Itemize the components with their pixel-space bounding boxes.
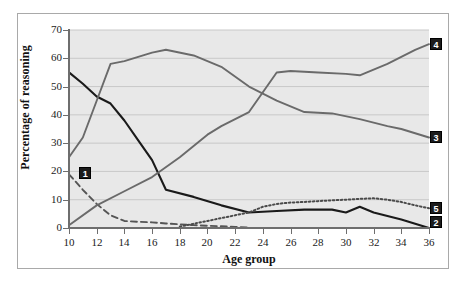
y-tick-label: 0 bbox=[40, 222, 62, 233]
x-tick-mark bbox=[97, 229, 98, 234]
series-lines bbox=[69, 30, 429, 228]
x-tick-label: 16 bbox=[139, 236, 165, 248]
series-line-3 bbox=[69, 50, 429, 157]
x-axis-title: Age group bbox=[69, 252, 429, 267]
x-tick-mark bbox=[374, 229, 375, 234]
x-tick-label: 14 bbox=[111, 236, 137, 248]
series-line-2 bbox=[69, 72, 429, 228]
y-tick-label: 20 bbox=[40, 165, 62, 176]
series-line-5 bbox=[180, 198, 429, 226]
x-tick-mark bbox=[346, 229, 347, 234]
y-tick-mark bbox=[63, 143, 68, 144]
x-tick-label: 36 bbox=[416, 236, 442, 248]
y-tick-mark bbox=[63, 115, 68, 116]
x-tick-label: 20 bbox=[194, 236, 220, 248]
x-tick-label: 34 bbox=[388, 236, 414, 248]
x-tick-mark bbox=[207, 229, 208, 234]
x-tick-label: 32 bbox=[361, 236, 387, 248]
figure-container: 010203040506070 101214161820222426283032… bbox=[0, 0, 466, 284]
series-tag-4: 4 bbox=[430, 38, 442, 50]
x-tick-mark bbox=[263, 229, 264, 234]
series-line-1 bbox=[69, 174, 249, 227]
plot-area bbox=[69, 30, 429, 228]
y-axis-title: Percentage of reasoning bbox=[18, 8, 33, 208]
y-tick-mark bbox=[63, 87, 68, 88]
y-tick-mark bbox=[63, 30, 68, 31]
x-tick-label: 10 bbox=[56, 236, 82, 248]
y-tick-label: 30 bbox=[40, 137, 62, 148]
x-tick-mark bbox=[318, 229, 319, 234]
x-tick-label: 28 bbox=[305, 236, 331, 248]
series-tag-2: 2 bbox=[430, 216, 442, 228]
y-tick-mark bbox=[63, 171, 68, 172]
x-tick-mark bbox=[124, 229, 125, 234]
x-tick-mark bbox=[235, 229, 236, 234]
series-tag-5: 5 bbox=[430, 202, 442, 214]
series-tag-1: 1 bbox=[79, 167, 91, 179]
y-tick-label: 50 bbox=[40, 81, 62, 92]
series-tag-3: 3 bbox=[430, 131, 442, 143]
x-tick-mark bbox=[401, 229, 402, 234]
x-tick-label: 30 bbox=[333, 236, 359, 248]
y-tick-label: 70 bbox=[40, 24, 62, 35]
x-tick-mark bbox=[429, 229, 430, 234]
x-tick-label: 12 bbox=[84, 236, 110, 248]
y-tick-mark bbox=[63, 228, 68, 229]
x-tick-label: 22 bbox=[222, 236, 248, 248]
y-axis-line bbox=[68, 29, 70, 229]
x-tick-mark bbox=[69, 229, 70, 234]
y-tick-mark bbox=[63, 200, 68, 201]
y-tick-label: 60 bbox=[40, 52, 62, 63]
y-tick-label: 10 bbox=[40, 194, 62, 205]
x-tick-label: 18 bbox=[167, 236, 193, 248]
x-tick-label: 24 bbox=[250, 236, 276, 248]
x-tick-mark bbox=[152, 229, 153, 234]
y-tick-mark bbox=[63, 58, 68, 59]
x-tick-mark bbox=[180, 229, 181, 234]
x-axis-line bbox=[68, 227, 430, 229]
x-tick-mark bbox=[291, 229, 292, 234]
x-tick-label: 26 bbox=[278, 236, 304, 248]
y-tick-label: 40 bbox=[40, 109, 62, 120]
